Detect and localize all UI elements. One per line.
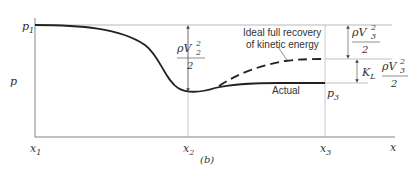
svg-text:3: 3 xyxy=(371,32,376,41)
svg-text:2: 2 xyxy=(195,48,201,57)
svg-text:2: 2 xyxy=(390,78,397,89)
pressure-diagram: p1 p p3 x1 x2 x3 x (b) Ideal full recove… xyxy=(0,0,409,175)
svg-text:2: 2 xyxy=(399,57,405,66)
x1-label: x1 xyxy=(30,142,41,157)
ideal-annotation-line2: of kinetic energy xyxy=(246,39,319,50)
svg-text:KL: KL xyxy=(361,66,376,81)
loss-coefficient-label: KL ρV 2 3 2 xyxy=(361,57,408,89)
svg-text:ρV: ρV xyxy=(176,42,192,55)
svg-text:ρV: ρV xyxy=(381,60,397,73)
x-axis-label: x xyxy=(390,141,397,154)
x3-label: x3 xyxy=(320,142,331,157)
y-axis-label: p xyxy=(10,75,17,88)
figure-caption: (b) xyxy=(200,154,214,165)
svg-text:3: 3 xyxy=(400,66,405,75)
svg-text:2: 2 xyxy=(370,23,376,32)
svg-text:ρV: ρV xyxy=(351,26,367,39)
svg-text:2: 2 xyxy=(195,39,201,48)
svg-text:2: 2 xyxy=(361,44,368,55)
dynamic-pressure-v3-label: ρV 2 3 2 xyxy=(351,23,380,55)
dynamic-pressure-v2-label: ρV 2 2 2 xyxy=(176,39,205,71)
svg-text:2: 2 xyxy=(186,60,193,71)
x2-label: x2 xyxy=(183,142,194,157)
p1-label: p1 xyxy=(22,20,34,35)
p3-label: p3 xyxy=(327,87,339,102)
ideal-annotation-line1: Ideal full recovery xyxy=(243,27,321,38)
ideal-recovery-curve xyxy=(219,59,325,86)
actual-annotation: Actual xyxy=(272,85,300,96)
